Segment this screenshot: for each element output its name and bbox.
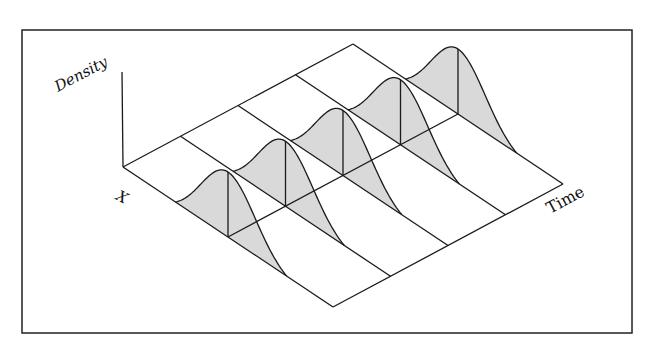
figure-frame [22, 30, 632, 333]
x-axis-label: X [112, 186, 132, 208]
density-axis-label: Density [51, 52, 112, 96]
front-time-axis [333, 184, 563, 307]
time-axis-label: Time [543, 182, 588, 218]
density-axis [122, 72, 123, 167]
density-diagram: Density X Time [0, 0, 648, 354]
density-curves [176, 47, 517, 276]
diagram-canvas: Density X Time [0, 0, 648, 354]
time-x-grid [123, 44, 563, 307]
